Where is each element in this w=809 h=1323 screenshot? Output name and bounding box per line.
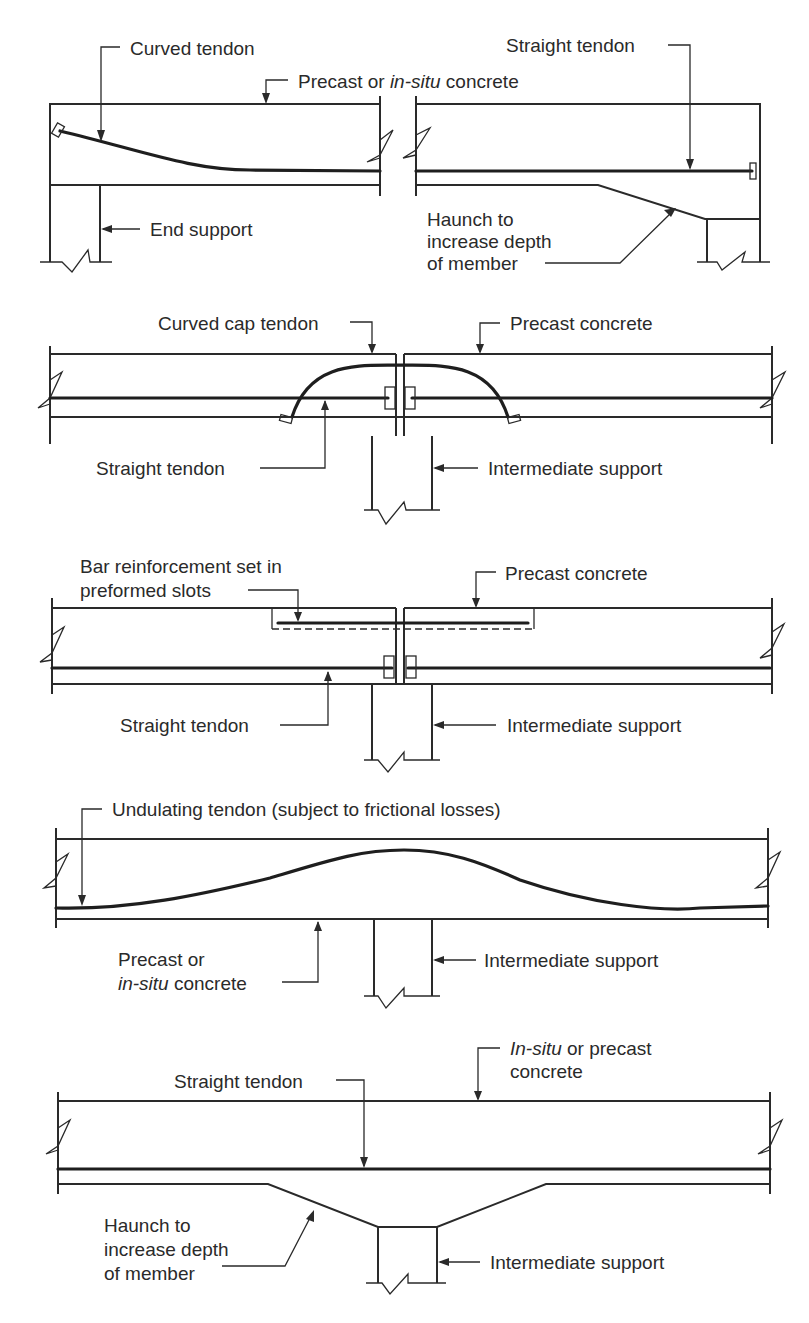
label-intermediate-support: Intermediate support: [507, 715, 682, 736]
label-precast-insitu: Precast or: [118, 949, 205, 970]
label-straight-tendon: Straight tendon: [120, 715, 249, 736]
label-end-support: End support: [150, 219, 253, 240]
label-haunch: Haunch to: [104, 1215, 191, 1236]
panel-undulating-tendon: Undulating tendon (subject to frictional…: [44, 799, 780, 1008]
label-straight-tendon: Straight tendon: [96, 458, 225, 479]
label-straight-tendon: Straight tendon: [174, 1071, 303, 1092]
panel-haunched-straight-tendon: In-situ or precast concrete Straight ten…: [46, 1038, 782, 1294]
undulating-tendon-line: [56, 850, 768, 909]
label-precast-concrete: Precast concrete: [505, 563, 648, 584]
beam-left: [40, 96, 393, 272]
label-precast-insitu: Precast or in-situ concrete: [298, 71, 519, 92]
label-intermediate-support: Intermediate support: [488, 458, 663, 479]
label-curved-tendon: Curved tendon: [130, 38, 255, 59]
label-undulating-tendon: Undulating tendon (subject to frictional…: [112, 799, 501, 820]
svg-text:of member: of member: [427, 253, 518, 274]
panel-bar-reinforcement: Bar reinforcement set in preformed slots…: [40, 556, 784, 772]
svg-text:preformed slots: preformed slots: [80, 580, 211, 601]
anchorage-icon: [52, 123, 65, 137]
label-intermediate-support: Intermediate support: [484, 950, 659, 971]
svg-text:increase depth: increase depth: [427, 231, 552, 252]
label-bar-reinforcement: Bar reinforcement set in: [80, 556, 282, 577]
svg-text:of member: of member: [104, 1263, 195, 1284]
label-intermediate-support: Intermediate support: [490, 1252, 665, 1273]
continuity-diagram: Curved tendon Precast or in-situ concret…: [0, 0, 809, 1323]
label-insitu-precast: In-situ or precast: [510, 1038, 652, 1059]
label-haunch: Haunch to: [427, 209, 514, 230]
svg-text:increase depth: increase depth: [104, 1239, 229, 1260]
svg-text:in-situ concrete: in-situ concrete: [118, 973, 247, 994]
label-curved-cap-tendon: Curved cap tendon: [158, 313, 319, 334]
label-straight-tendon: Straight tendon: [506, 35, 635, 56]
svg-text:concrete: concrete: [510, 1061, 583, 1082]
panel-curved-cap-tendon: Curved cap tendon Precast concrete Strai…: [38, 313, 785, 524]
label-precast-concrete: Precast concrete: [510, 313, 653, 334]
curved-tendon-line: [60, 131, 380, 171]
panel-end-support: Curved tendon Precast or in-situ concret…: [40, 35, 770, 274]
